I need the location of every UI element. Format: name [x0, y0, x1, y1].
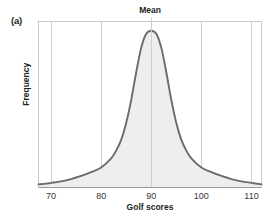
- x-tick-label-70: 70: [46, 191, 56, 201]
- distribution-area: [39, 31, 262, 188]
- distribution-plot: 708090100110: [0, 0, 272, 223]
- x-tick-label-90: 90: [146, 191, 156, 201]
- x-tick-label-110: 110: [244, 191, 258, 201]
- x-tick-labels: 708090100110: [46, 191, 259, 201]
- x-tick-label-100: 100: [194, 191, 209, 201]
- x-tick-label-80: 80: [96, 191, 106, 201]
- figure-panel-a: (a) Mean Frequency Golf scores 708090100…: [0, 0, 272, 223]
